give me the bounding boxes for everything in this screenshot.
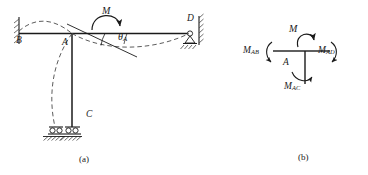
caption-panel-a: (a) <box>79 155 89 164</box>
deflected-shape-ac <box>52 34 72 128</box>
diagram-canvas <box>0 0 368 175</box>
node-label-c: C <box>86 110 92 120</box>
caption-panel-b: (b) <box>298 153 309 162</box>
rotation-angle-arc <box>101 34 105 46</box>
applied-moment-label: M <box>102 6 110 16</box>
deflected-shape-ba <box>19 21 72 33</box>
moment-ab-label: MAB <box>243 46 259 56</box>
moment-arrow-ac <box>292 72 312 81</box>
moment-ad-label: MAD <box>318 46 335 56</box>
moment-ac-label: MAC <box>284 82 301 92</box>
joint-free-body <box>267 34 337 84</box>
moment-arrow-applied <box>297 34 314 47</box>
joint-label-a: A <box>283 58 289 68</box>
rotation-angle-label: θA <box>118 32 127 43</box>
applied-moment-arrow-a <box>92 16 120 30</box>
node-label-d: D <box>187 14 194 24</box>
deflected-shape-ad <box>72 34 189 48</box>
joint-applied-moment-label: M <box>289 24 297 34</box>
node-label-a: A <box>62 38 68 48</box>
structural-diagram-figure: B A C D M θA M A MAB MAD MAC (a) (b) <box>0 0 368 175</box>
node-label-b: B <box>16 36 22 46</box>
roller-support-c <box>43 127 82 141</box>
moment-arrow-ab <box>267 42 272 62</box>
